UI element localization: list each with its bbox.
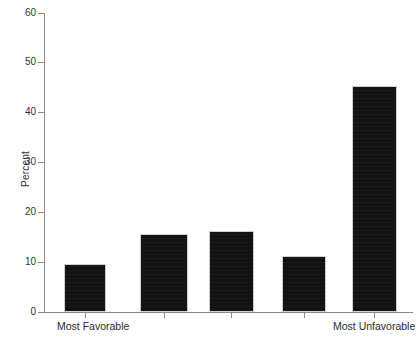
x-tick-mark-4 [304, 313, 305, 318]
x-tick-mark-1 [85, 313, 86, 318]
bar-1 [64, 264, 106, 312]
bar-4 [282, 256, 326, 312]
y-tick-mark-40 [38, 112, 44, 113]
bar-5 [352, 86, 397, 312]
y-tick-label-0: 0 [16, 307, 36, 317]
y-tick-label-60: 60 [16, 8, 36, 18]
bar-2 [140, 234, 188, 312]
y-tick-mark-50 [38, 62, 44, 63]
y-axis-title: Percent [17, 0, 35, 338]
x-tick-label-most-unfavorable: Most Unfavorable [333, 320, 415, 333]
y-tick-label-30: 30 [16, 157, 36, 167]
bar-chart: Percent 60 50 40 30 20 10 0 Most Favorab… [0, 0, 420, 338]
x-axis-line [44, 312, 413, 313]
x-tick-mark-2 [164, 313, 165, 318]
y-tick-label-10: 10 [16, 257, 36, 267]
y-tick-label-40: 40 [16, 107, 36, 117]
y-tick-label-50: 50 [16, 57, 36, 67]
y-tick-mark-30 [38, 162, 44, 163]
x-tick-mark-3 [231, 313, 232, 318]
x-tick-mark-5 [374, 313, 375, 318]
y-axis-line [44, 13, 45, 313]
y-tick-mark-10 [38, 262, 44, 263]
y-tick-mark-60 [38, 13, 44, 14]
y-tick-mark-0 [38, 312, 44, 313]
x-tick-label-most-favorable: Most Favorable [57, 320, 129, 333]
y-tick-label-20: 20 [16, 207, 36, 217]
y-tick-mark-20 [38, 212, 44, 213]
bar-3 [209, 231, 254, 312]
